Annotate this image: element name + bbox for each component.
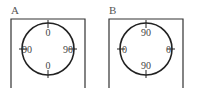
value-bottom: 90 bbox=[141, 60, 151, 71]
value-top: 90 bbox=[141, 27, 151, 38]
value-left: 90 bbox=[22, 44, 32, 55]
diagram: A 0 0 90 90 B 90 90 0 0 bbox=[0, 0, 197, 96]
panel-label: B bbox=[109, 4, 116, 16]
value-left: 0 bbox=[122, 44, 127, 55]
value-bottom: 0 bbox=[46, 60, 51, 71]
value-right: 90 bbox=[63, 44, 73, 55]
value-top: 0 bbox=[46, 27, 51, 38]
panel-label: A bbox=[11, 4, 19, 16]
panel-a: A 0 0 90 90 bbox=[11, 4, 85, 88]
value-right: 0 bbox=[166, 44, 171, 55]
panel-b: B 90 90 0 0 bbox=[109, 4, 183, 88]
